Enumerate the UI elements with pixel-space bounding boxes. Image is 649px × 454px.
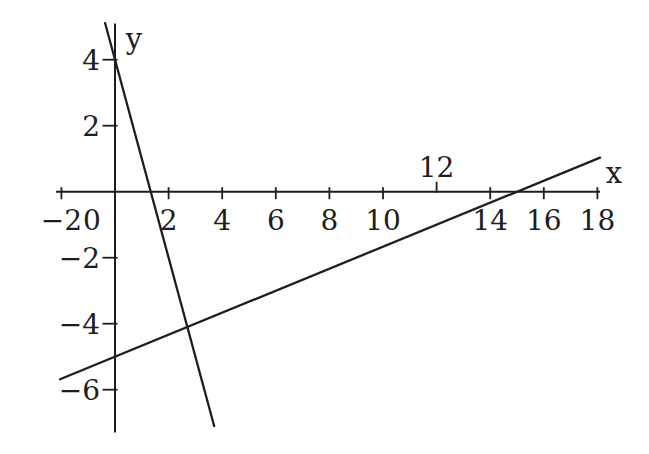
y-tick-label: −2 [59,242,100,275]
x-axis-label: x [606,156,622,190]
x-tick-label: 6 [267,204,285,237]
x-tick-label: 4 [213,204,231,237]
x-tick-label: −2 [41,204,82,237]
y-tick-label: −6 [59,374,100,407]
x-tick-label: 8 [320,204,338,237]
x-tick-label: 18 [580,204,616,237]
x-tick-label: 12 [419,151,455,184]
y-tick-label: 4 [82,44,100,77]
x-tick-label: 16 [526,204,562,237]
graph-figure: −202468101214161842−2−4−6 x y [0,0,649,454]
x-tick-label: 10 [365,204,401,237]
y-axis-label: y [125,22,143,56]
steep-line [105,23,214,426]
x-tick-label: 0 [83,204,101,237]
graph-svg: −202468101214161842−2−4−6 x y [0,0,649,454]
y-tick-label: 2 [82,110,100,143]
plot-layer: −202468101214161842−2−4−6 [41,23,615,433]
y-tick-label: −4 [59,308,100,341]
